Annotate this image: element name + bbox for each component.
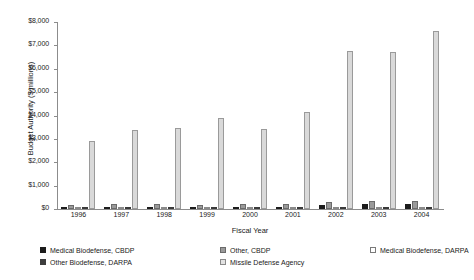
bar xyxy=(276,207,282,209)
legend-item: Other Biodefense, DARPA xyxy=(40,259,220,266)
bar xyxy=(347,51,353,209)
y-axis-tick-label: $4,000 xyxy=(28,111,49,118)
bar xyxy=(68,205,74,209)
bar xyxy=(376,207,382,209)
y-axis-tick-label: $2,000 xyxy=(28,157,49,164)
bar xyxy=(211,207,217,209)
legend-swatch xyxy=(220,247,226,253)
bar xyxy=(304,112,310,209)
bar xyxy=(132,130,138,209)
bar-group xyxy=(314,22,357,209)
bar xyxy=(362,204,368,209)
bar-group xyxy=(186,22,229,209)
bar xyxy=(240,204,246,209)
bar xyxy=(319,205,325,209)
bar xyxy=(261,129,267,209)
bar xyxy=(297,207,303,209)
bar-group xyxy=(57,22,100,209)
legend-label: Missile Defense Agency xyxy=(230,259,304,266)
bar xyxy=(175,128,181,209)
x-axis-tick-label: 1999 xyxy=(186,211,229,218)
bar xyxy=(89,141,95,209)
bar xyxy=(405,204,411,209)
bar xyxy=(118,207,124,209)
legend-label: Medical Biodefense, DARPA xyxy=(380,247,469,254)
bar xyxy=(204,207,210,209)
legend-label: Other Biodefense, DARPA xyxy=(50,259,132,266)
legend-label: Other, CBDP xyxy=(230,247,270,254)
bar xyxy=(125,207,131,209)
bar xyxy=(154,204,160,209)
legend-swatch xyxy=(40,247,46,253)
bar xyxy=(82,207,88,209)
bar-group xyxy=(271,22,314,209)
bar xyxy=(168,207,174,209)
x-axis-ticks: 199619971998199920002001200220032004 xyxy=(57,211,443,218)
bar xyxy=(433,31,439,209)
legend-swatch xyxy=(220,259,226,265)
y-axis-tick-label: $7,000 xyxy=(28,40,49,47)
bar xyxy=(369,201,375,209)
x-axis-tick-label: 2004 xyxy=(400,211,443,218)
bar xyxy=(390,52,396,209)
bar xyxy=(426,207,432,209)
bar xyxy=(383,207,389,209)
chart-legend: Medical Biodefense, CBDPOther, CBDPMedic… xyxy=(40,244,440,268)
bar xyxy=(233,207,239,209)
x-axis-line xyxy=(57,209,444,210)
legend-item: Other, CBDP xyxy=(220,247,370,254)
bar xyxy=(340,207,346,209)
legend-label: Medical Biodefense, CBDP xyxy=(50,247,134,254)
bar xyxy=(326,202,332,209)
bar xyxy=(412,201,418,209)
y-axis-tick-label: $1,000 xyxy=(28,181,49,188)
x-axis-tick-label: 2001 xyxy=(271,211,314,218)
bar xyxy=(290,207,296,209)
x-axis-tick-label: 1996 xyxy=(57,211,100,218)
bar xyxy=(197,205,203,209)
bar xyxy=(218,118,224,209)
bar xyxy=(247,207,253,209)
legend-swatch xyxy=(370,247,376,253)
x-axis-title: Fiscal Year xyxy=(57,226,443,235)
x-axis-tick-label: 1997 xyxy=(100,211,143,218)
y-axis-tick-label: $3,000 xyxy=(28,134,49,141)
bar xyxy=(61,207,67,209)
bar xyxy=(419,207,425,209)
x-axis-tick-label: 2003 xyxy=(357,211,400,218)
bar-group xyxy=(229,22,272,209)
bar xyxy=(75,207,81,209)
x-axis-tick-label: 1998 xyxy=(143,211,186,218)
bar-group xyxy=(100,22,143,209)
bar xyxy=(283,204,289,209)
y-axis-tick-label: $0 xyxy=(41,204,49,211)
bar-groups xyxy=(57,22,443,209)
y-axis-title: Budget Authority ($ millions) xyxy=(26,29,35,189)
bar xyxy=(161,207,167,209)
y-axis-tick-label: $6,000 xyxy=(28,64,49,71)
bar xyxy=(104,207,110,209)
y-axis-tick-label: $5,000 xyxy=(28,87,49,94)
x-axis-tick-label: 2002 xyxy=(314,211,357,218)
legend-item: Missile Defense Agency xyxy=(220,259,370,266)
x-axis-tick-label: 2000 xyxy=(229,211,272,218)
bar xyxy=(190,207,196,209)
legend-item: Medical Biodefense, DARPA xyxy=(370,247,474,254)
legend-item: Medical Biodefense, CBDP xyxy=(40,247,220,254)
y-axis-tick-label: $8,000 xyxy=(28,17,49,24)
bar xyxy=(254,207,260,209)
bar-group xyxy=(143,22,186,209)
bar xyxy=(111,204,117,209)
bar xyxy=(147,207,153,209)
bar-group xyxy=(357,22,400,209)
bar xyxy=(333,207,339,209)
y-axis-tick-mark xyxy=(54,209,57,210)
bar-group xyxy=(400,22,443,209)
legend-swatch xyxy=(40,259,46,265)
